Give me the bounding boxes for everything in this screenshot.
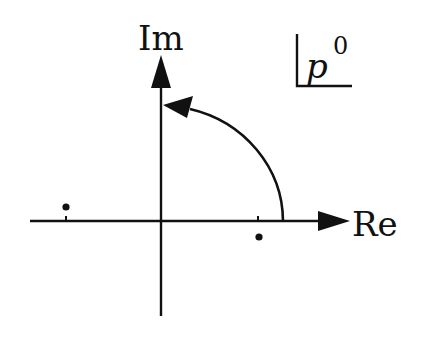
left-pole-dot <box>62 203 69 210</box>
real-axis <box>30 211 350 231</box>
plane-label-superscript: 0 <box>333 32 348 60</box>
complex-plane-diagram: Im Re p 0 <box>0 0 425 337</box>
imaginary-axis <box>151 55 171 316</box>
right-pole-dot <box>255 233 262 240</box>
contour-arrow-icon <box>163 96 193 118</box>
plane-label: p 0 <box>297 32 352 86</box>
real-axis-label: Re <box>352 204 398 244</box>
contour-arc <box>163 96 283 221</box>
imaginary-axis-label: Im <box>138 18 184 58</box>
real-axis-arrow-icon <box>318 211 350 231</box>
plane-label-base: p <box>306 46 328 86</box>
imaginary-axis-arrow-icon <box>151 55 171 88</box>
